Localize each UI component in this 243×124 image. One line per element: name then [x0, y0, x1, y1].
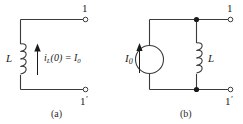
- panel-b-schematic: [136, 17, 233, 92]
- panel-b-terminal-bottom-prime: ′: [231, 94, 233, 104]
- panel-a-inductor-coil: [21, 44, 27, 74]
- panel-b-inductor-coil: [197, 43, 203, 73]
- panel-b-terminal-top-label: 1: [227, 3, 233, 14]
- panel-a-terminal-bottom-prime: ′: [86, 94, 88, 104]
- panel-a-terminal-top-label: 1: [82, 3, 88, 14]
- panel-a-current-equation: iL(0) = I0: [44, 53, 81, 65]
- panel-a-caption: (a): [51, 109, 62, 119]
- panel-b-source-label: I0: [125, 53, 133, 66]
- panel-a-current-arrow: [34, 44, 40, 76]
- panel-a-terminal-top-node: [83, 17, 88, 22]
- panel-b-terminal-bottom-node: [228, 87, 233, 92]
- panel-b-terminal-bottom-label: 1′: [225, 95, 232, 107]
- panel-b-node-dot-top: [194, 17, 199, 22]
- panel-a-current-rest-subscript: 0: [77, 57, 80, 64]
- circuit-figure: L iL(0) = I0 1 1′ (a) I0 L 1 1′ (b): [0, 0, 243, 124]
- panel-a-terminal-bottom-node: [83, 87, 88, 92]
- panel-a-inductor-label: L: [6, 53, 12, 64]
- panel-b-inductor-label: L: [208, 53, 214, 64]
- panel-a-current-rest: (0) = I: [51, 52, 78, 63]
- panel-b-terminal-top-node: [228, 17, 233, 22]
- panel-b-source-subscript: 0: [129, 57, 133, 66]
- circuit-schematic-canvas: [0, 0, 243, 124]
- panel-b-caption: (b): [180, 109, 192, 119]
- panel-b-node-dot-bottom: [194, 87, 199, 92]
- panel-a-terminal-bottom-label: 1′: [80, 95, 87, 107]
